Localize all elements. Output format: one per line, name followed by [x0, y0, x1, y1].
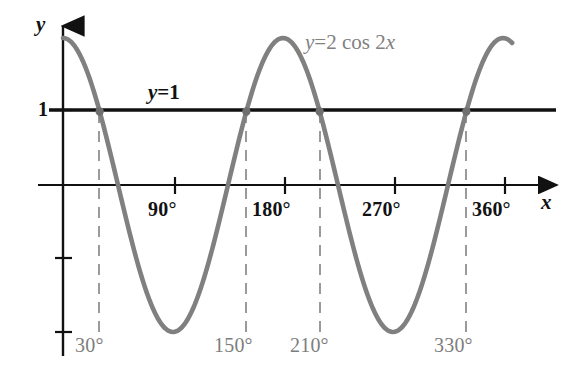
- x-tick-label-360: 360°: [472, 199, 511, 219]
- line-equation-label: y=1: [148, 82, 180, 103]
- solution-label-210: 210°: [290, 335, 329, 355]
- curve-eq-equals: =: [314, 30, 326, 54]
- trig-graph-figure: y x 1 90° 180° 270° 360° 30° 150° 210° 3…: [0, 0, 562, 366]
- curve-eq-y: y: [305, 30, 314, 54]
- y-tick-label-1: 1: [38, 99, 48, 119]
- curve-equation-label: y=2 cos 2x: [305, 32, 395, 53]
- curve-eq-body: 2 cos 2: [326, 30, 386, 54]
- x-tick-label-90: 90°: [148, 199, 177, 219]
- x-tick-label-270: 270°: [362, 199, 401, 219]
- curve-eq-var: x: [386, 30, 395, 54]
- y-axis-label: y: [36, 14, 45, 35]
- x-tick-label-180: 180°: [252, 199, 291, 219]
- intersection-dot-330: [462, 107, 470, 115]
- plot-area: [0, 0, 562, 366]
- solution-label-150: 150°: [214, 335, 253, 355]
- line-eq-value: 1: [169, 80, 180, 104]
- intersection-dot-210: [315, 107, 323, 115]
- intersection-dot-150: [242, 107, 250, 115]
- solution-label-330: 330°: [434, 335, 473, 355]
- x-axis-label: x: [541, 192, 552, 213]
- intersection-dot-30: [95, 107, 103, 115]
- line-eq-y: y: [148, 80, 157, 104]
- solution-label-30: 30°: [75, 335, 104, 355]
- line-eq-equals: =: [157, 80, 169, 104]
